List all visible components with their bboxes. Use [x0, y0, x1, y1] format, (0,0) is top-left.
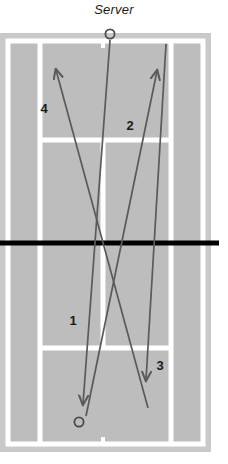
court-graphic: 4 2 1 3 [0, 0, 228, 464]
shot-label-4: 4 [40, 101, 48, 116]
shot-label-1: 1 [69, 313, 76, 328]
shot-label-2: 2 [126, 118, 133, 133]
tennis-court-diagram: Server [0, 0, 228, 464]
shot-label-3: 3 [156, 358, 163, 373]
